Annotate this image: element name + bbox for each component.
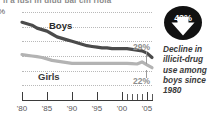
x-tick-label-1990: '90 [61,104,83,113]
down-arrow-circle-icon [164,6,202,40]
x-tick-2004 [142,94,143,100]
infographic-root: il a lusi in diug pai cin rioia 60% 50 4… [0,0,215,128]
line-chart: 60% 50 40 30 20 10 0 Boys Girls 29% 22% [0,6,158,128]
x-tick-label-2000: '00 [111,104,133,113]
x-tick-label-2005: '05 [136,104,158,113]
x-tick-2002 [132,94,133,100]
badge-value: 42% [164,13,202,23]
x-tick-1995 [97,92,98,100]
x-tick-1985 [47,92,48,100]
x-tick-1990 [72,92,73,100]
end-label-boys: 29% [133,42,150,52]
x-axis-line [22,100,153,101]
cropped-headline: il a lusi in diug pai cin rioia [3,0,153,3]
x-tick-label-1995: '95 [86,104,108,113]
callout-caption: Decline in illicit-drug use among boys s… [163,44,215,95]
x-tick-1980 [22,92,23,100]
x-tick-2003 [137,94,138,100]
series-line-boys [22,22,152,57]
x-tick-label-1985: '85 [36,104,58,113]
x-tick-2005 [147,92,148,100]
x-tick-2001 [127,94,128,100]
callout-panel: 42% Decline in illicit-drug use among bo… [160,3,215,128]
y-tick-label-60: 60% [0,8,5,16]
x-tick-2006 [152,94,153,100]
x-tick-2000 [122,92,123,100]
series-label-boys: Boys [49,20,72,31]
series-lines [22,12,152,100]
series-label-girls: Girls [38,71,60,82]
leader-line-boys [146,51,147,64]
end-label-girls: 22% [133,76,150,86]
x-tick-label-1980: '80 [11,104,33,113]
leader-line-girls [146,70,147,78]
series-line-girls [22,55,152,68]
